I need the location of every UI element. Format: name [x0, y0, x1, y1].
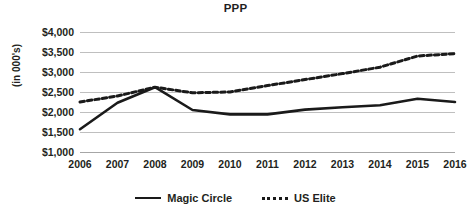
plot-area: [80, 32, 455, 152]
y-axis-tick-label: $2,000: [42, 107, 74, 117]
solid-line-icon: [135, 197, 161, 199]
x-axis-tick-label: 2006: [68, 158, 91, 170]
y-axis-tick-label: $4,000: [42, 27, 74, 37]
legend-item[interactable]: Magic Circle: [135, 192, 232, 204]
y-axis-tick-label: $1,000: [42, 147, 74, 157]
x-axis-tick-label: 2007: [106, 158, 129, 170]
legend-item[interactable]: US Elite: [262, 192, 336, 204]
y-axis-tick-label: $3,000: [42, 67, 74, 77]
legend-item-label: Magic Circle: [167, 192, 232, 204]
x-axis-tick-label: 2011: [256, 158, 279, 170]
y-axis-tick-label: $1,500: [42, 127, 74, 137]
x-axis-tick-label: 2010: [218, 158, 241, 170]
dotted-line-icon: [262, 197, 288, 200]
y-axis-title: (in 000's): [11, 26, 22, 106]
x-axis-tick-labels: 2006200720082009201020112012201320142015…: [80, 158, 455, 174]
legend-item-label: US Elite: [294, 192, 336, 204]
y-axis-tick-labels: $1,000$1,500$2,000$2,500$3,000$3,500$4,0…: [30, 24, 74, 160]
gridline: [80, 152, 455, 153]
x-axis-tick-label: 2016: [443, 158, 466, 170]
series-line-1: [80, 87, 455, 129]
x-axis-tick-label: 2015: [406, 158, 429, 170]
chart-legend: Magic CircleUS Elite: [0, 188, 471, 208]
x-axis-tick-label: 2009: [181, 158, 204, 170]
y-axis-tick-label: $2,500: [42, 87, 74, 97]
chart-title: PPP: [0, 2, 471, 14]
x-axis-tick-label: 2013: [331, 158, 354, 170]
series-lines: [80, 32, 455, 152]
x-axis-tick-label: 2014: [368, 158, 391, 170]
x-axis-tick-label: 2008: [143, 158, 166, 170]
y-axis-tick-label: $3,500: [42, 47, 74, 57]
x-axis-tick-label: 2012: [293, 158, 316, 170]
ppp-line-chart: PPP (in 000's) $1,000$1,500$2,000$2,500$…: [0, 0, 471, 219]
